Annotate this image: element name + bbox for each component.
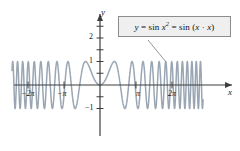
x-axis-label: x <box>228 88 232 97</box>
y-tick-label-2: 2 <box>89 33 93 41</box>
x-tick-label-neg-pi: −π <box>57 90 66 98</box>
y-tick-label-1: 1 <box>89 57 93 65</box>
function-plot-figure: y = sin x2 = sin (x · x) y x 2 1 −1 −2π … <box>0 0 240 151</box>
y-axis-label: y <box>101 8 105 17</box>
function-equation-callout: y = sin x2 = sin (x · x) <box>118 16 231 37</box>
x-tick-label-pi: π <box>136 90 140 98</box>
function-equation-text: y = sin x2 = sin (x · x) <box>135 22 215 32</box>
callout-leader-line <box>148 40 166 62</box>
x-tick-label-neg-2pi: −2π <box>21 90 34 98</box>
y-tick-label-neg1: −1 <box>85 104 94 112</box>
x-tick-label-2pi: 2π <box>168 90 176 98</box>
